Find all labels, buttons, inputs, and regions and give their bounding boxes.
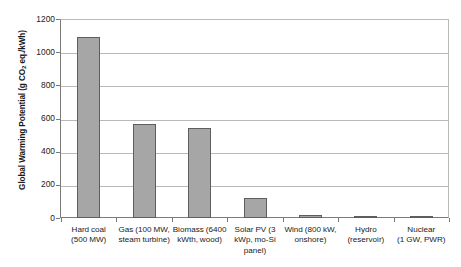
x-axis-category-label-line: Solar PV (3 — [227, 225, 282, 235]
x-axis-category-label: Hard coal(500 MW) — [61, 225, 116, 246]
x-axis-tick-mark — [61, 218, 62, 222]
x-axis-category-label: Solar PV (3kWp, mo-Sipanel) — [227, 225, 282, 256]
x-axis-category-label-line: Wind (800 kW, — [283, 225, 338, 235]
x-axis-tick-mark — [449, 218, 450, 222]
x-axis-category-label-line: (reservoir) — [338, 235, 393, 245]
y-axis-tick-mark — [56, 218, 60, 219]
y-axis-tick-label: 600 — [24, 114, 55, 123]
bar — [77, 37, 100, 218]
x-axis-tick-mark — [227, 218, 228, 222]
x-axis-category-label-line: Nuclear — [394, 225, 449, 235]
x-axis-tick-marks — [61, 218, 449, 223]
x-axis-category-label: Biomass (6400kWth, wood) — [172, 225, 227, 246]
x-axis-tick-mark — [394, 218, 395, 222]
x-axis-category-label-line: Hard coal — [61, 225, 116, 235]
y-axis-tick-label: 200 — [24, 180, 55, 189]
bar — [133, 124, 156, 218]
bar — [188, 128, 211, 218]
x-axis-category-label-line: steam turbine) — [116, 235, 171, 245]
x-axis-category-label-line: (500 MW) — [61, 235, 116, 245]
bars-layer — [61, 19, 449, 218]
x-axis-tick-mark — [116, 218, 117, 222]
bar — [244, 198, 267, 218]
x-axis-category-label-line: kWp, mo-Si — [227, 235, 282, 245]
x-axis-tick-mark — [283, 218, 284, 222]
x-axis-category-label-line: (1 GW, PWR) — [394, 235, 449, 245]
x-axis-category-label: Nuclear(1 GW, PWR) — [394, 225, 449, 246]
x-axis-category-label: Gas (100 MW,steam turbine) — [116, 225, 171, 246]
x-axis-category-label-line: panel) — [227, 246, 282, 256]
x-axis-category-label-line: kWth, wood) — [172, 235, 227, 245]
y-axis-tick-label: 1200 — [24, 15, 55, 24]
y-axis-tick-labels: 020040060080010001200 — [24, 0, 55, 267]
x-axis-category-label-line: Gas (100 MW, — [116, 225, 171, 235]
x-axis-tick-mark — [338, 218, 339, 222]
x-axis-category-label: Wind (800 kW,onshore) — [283, 225, 338, 246]
y-axis-tick-label: 1000 — [24, 48, 55, 57]
x-axis-category-labels: Hard coal(500 MW)Gas (100 MW,steam turbi… — [61, 225, 449, 267]
x-axis-category-label-line: Hydro — [338, 225, 393, 235]
bar-chart-figure: Global Warming Potential (g CO2 eq./kWh)… — [0, 0, 461, 267]
x-axis-category-label-line: onshore) — [283, 235, 338, 245]
x-axis-category-label: Hydro(reservoir) — [338, 225, 393, 246]
x-axis-category-label-line: Biomass (6400 — [172, 225, 227, 235]
y-axis-tick-label: 400 — [24, 147, 55, 156]
y-axis-tick-label: 800 — [24, 81, 55, 90]
x-axis-tick-mark — [172, 218, 173, 222]
y-axis-tick-label: 0 — [24, 214, 55, 223]
